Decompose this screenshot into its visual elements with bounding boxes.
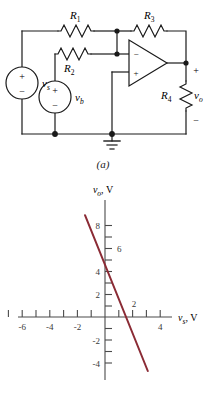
opamp-noninverting-sign: + — [133, 68, 138, 78]
x-tick-label-neg2: -2 — [74, 322, 82, 332]
junction-dot-inverting — [114, 51, 119, 56]
x-tick-label-4: 4 — [158, 322, 163, 332]
label-R3: R3 — [143, 9, 155, 24]
resistor-R4-symbol — [180, 81, 192, 111]
x-tick-label-neg6: -6 — [18, 322, 26, 332]
figure-b-plot: vo, V — [0, 180, 206, 406]
junction-dot-top — [114, 28, 119, 33]
resistor-R1-symbol — [58, 25, 94, 37]
vo-minus-sign: − — [193, 115, 199, 126]
figure-a-circuit: R1 R3 R2 R4 vs vb vo + − + − + − — [0, 0, 206, 200]
line-chart: vo, V — [0, 180, 206, 406]
junction-dot-bottom-vb — [52, 131, 58, 137]
x-tick-label-neg4: -4 — [46, 322, 54, 332]
caption-figure-a: (a) — [0, 158, 206, 170]
circuit-schematic: R1 R3 R2 R4 vs vb vo + − + − + − — [0, 0, 206, 160]
label-R1: R1 — [69, 9, 81, 24]
resistor-R3-symbol — [131, 25, 167, 37]
junction-dot-output — [183, 60, 188, 65]
y-tick-label-6: 6 — [117, 244, 122, 254]
y-tick-label-8: 8 — [96, 221, 101, 231]
data-line-vo-vs — [85, 215, 148, 371]
y-tick-label-neg2: -2 — [93, 336, 101, 346]
label-R4: R4 — [160, 89, 172, 104]
y-axis-title: vo, V — [93, 184, 114, 198]
label-vb: vb — [75, 91, 84, 106]
y-tick-label-2: 2 — [96, 290, 101, 300]
y-tick-label-4: 4 — [96, 267, 101, 277]
junction-dot-ground — [109, 131, 115, 137]
vb-minus-sign: − — [52, 100, 58, 111]
y-tick-label-neg4: -4 — [93, 359, 101, 369]
vs-minus-sign: − — [19, 86, 25, 97]
vs-plus-sign: + — [19, 71, 25, 82]
vo-plus-sign: + — [193, 65, 199, 76]
label-R2: R2 — [63, 62, 75, 77]
label-vo: vo — [194, 89, 203, 104]
wire-R3-to-output — [167, 31, 186, 62]
vb-plus-sign: + — [52, 85, 58, 96]
op-amp-triangle — [129, 40, 167, 86]
opamp-inverting-sign: − — [133, 49, 138, 59]
resistor-R2-symbol — [55, 48, 91, 60]
x-tick-label-2: 2 — [132, 299, 137, 309]
x-axis-title: vs, V — [178, 312, 198, 326]
